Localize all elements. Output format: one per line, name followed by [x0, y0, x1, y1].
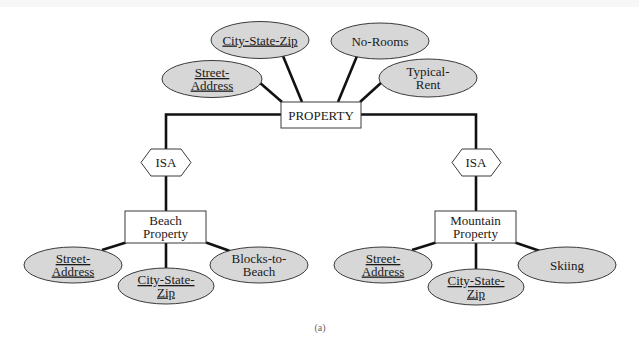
entity-beach-property: BeachProperty: [125, 211, 206, 243]
attribute-beach-street-address: Street-Address: [24, 247, 122, 283]
attribute-property-city-state-zip: City-State-Zip: [211, 22, 309, 59]
connector-mountain-street-address: [412, 243, 436, 251]
attribute-label: Skiing: [550, 258, 584, 273]
connector-property-typical-rent: [360, 82, 382, 102]
connector-mountain-skiing: [515, 243, 540, 252]
entity-label: MountainProperty: [450, 213, 501, 241]
connector-property-street-address: [259, 82, 282, 102]
figure-caption: (a): [314, 322, 325, 334]
attribute-label: Street-Address: [52, 251, 95, 279]
attribute-property-street-address: Street-Address: [162, 61, 262, 98]
attribute-label: Street-Address: [191, 65, 234, 93]
attribute-label: Street-Address: [362, 251, 405, 279]
connector-property-city-state-zip: [283, 56, 302, 102]
relationship-isa-right: ISA: [452, 149, 501, 176]
entity-mountain-property: MountainProperty: [435, 211, 516, 243]
connector-beach-blocks-to-beach: [206, 243, 230, 252]
attribute-beach-blocks-to-beach: Blocks-to-Beach: [210, 247, 308, 283]
scan-artifact-band: [0, 0, 639, 7]
entity-label: BeachProperty: [143, 213, 188, 241]
connector-property-isa-left: [166, 115, 281, 150]
attribute-mountain-city-state-zip: City-State-Zip: [428, 269, 524, 305]
connector-property-isa-right: [361, 115, 476, 150]
connector-property-no-rooms: [338, 56, 357, 102]
er-diagram: City-State-Zip No-Rooms Street-Address T…: [0, 0, 639, 345]
connector-beach-street-address: [102, 243, 126, 251]
attribute-label: No-Rooms: [351, 34, 408, 49]
attribute-label: City-State-Zip: [222, 33, 297, 48]
entity-label: PROPERTY: [288, 108, 354, 123]
isa-label: ISA: [466, 155, 488, 170]
attribute-property-typical-rent: Typical-Rent: [379, 59, 477, 97]
attribute-beach-city-state-zip: City-State-Zip: [118, 268, 214, 304]
attribute-mountain-skiing: Skiing: [518, 247, 616, 283]
entity-property: PROPERTY: [281, 102, 361, 128]
attribute-property-no-rooms: No-Rooms: [331, 23, 429, 59]
attribute-mountain-street-address: Street-Address: [334, 247, 432, 283]
relationship-isa-left: ISA: [141, 149, 191, 176]
isa-label: ISA: [156, 155, 178, 170]
